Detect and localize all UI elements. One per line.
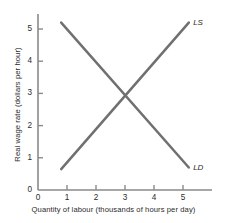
chart-series-group xyxy=(61,23,189,170)
y-tick-label: 4 xyxy=(18,56,32,65)
y-axis-title: Real wage rate (dollars per hour) xyxy=(13,20,22,190)
y-tick-label: 2 xyxy=(18,121,32,130)
curve-label-ls: LS xyxy=(193,18,203,27)
y-tick-label: 0 xyxy=(18,185,32,194)
y-tick-label: 1 xyxy=(18,153,32,162)
x-tick-label: 5 xyxy=(176,193,190,202)
labour-market-chart: Quantity of labour (thousands of hours p… xyxy=(0,0,227,223)
x-tick-label: 3 xyxy=(118,193,132,202)
x-tick-label: 1 xyxy=(60,193,74,202)
y-tick-label: 3 xyxy=(18,88,32,97)
x-tick-label: 2 xyxy=(89,193,103,202)
x-axis-title: Quantity of labour (thousands of hours p… xyxy=(0,205,227,214)
y-tick-label: 5 xyxy=(18,24,32,33)
curve-label-ld: LD xyxy=(193,163,203,172)
x-tick-label: 4 xyxy=(147,193,161,202)
x-tick-label: 0 xyxy=(31,193,45,202)
chart-plot-area xyxy=(0,0,227,223)
